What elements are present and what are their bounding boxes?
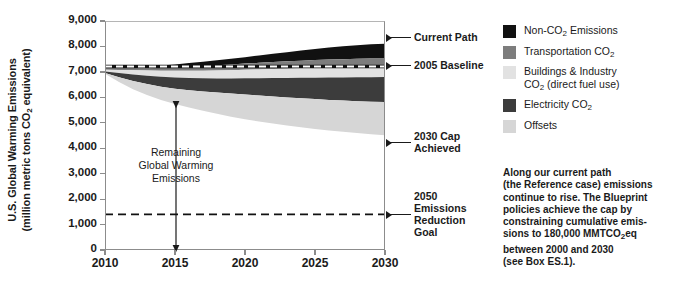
y-axis-title-line1: U.S. Global Warming Emissions xyxy=(6,58,18,222)
callout-2005-baseline: 2005 Baseline xyxy=(414,59,509,71)
legend-item-non-co2-emissions[interactable]: Non-CO2 Emissions xyxy=(503,24,678,41)
remaining-emissions-arrow xyxy=(105,21,385,250)
x-tick-label-2010: 2010 xyxy=(75,256,135,270)
caption-line8: (see Box ES.1). xyxy=(503,256,675,268)
x-tick-label-2025: 2025 xyxy=(285,256,345,270)
x-tick-label-2020: 2020 xyxy=(215,256,275,270)
y-tick-label-7000: 7,000 xyxy=(35,64,97,76)
callout-2050-goal-line1: 2050 xyxy=(414,190,494,202)
callout-line-2030-cap xyxy=(389,142,411,143)
callout-line-2005-baseline xyxy=(389,65,411,66)
x-tick-label-2030: 2030 xyxy=(355,256,415,270)
x-tick-mark-2025 xyxy=(314,250,315,255)
caption-line7: between 2000 and 2030 xyxy=(503,244,675,256)
x-tick-mark-2020 xyxy=(244,250,245,255)
figure-stacked-area-emissions: U.S. Global Warming Emissions (million m… xyxy=(0,0,681,284)
callout-2030-cap-line1: 2030 Cap xyxy=(414,130,494,142)
caption-line5: constraining cumulative emis- xyxy=(503,216,675,228)
legend-item-buildings-industry-co2[interactable]: Buildings & IndustryCO2 (direct fuel use… xyxy=(503,65,678,94)
callout-2050-goal-line2: Emissions xyxy=(414,202,494,214)
caption-text: Along our current path (the Reference ca… xyxy=(503,167,675,268)
legend-label-offsets: Offsets xyxy=(524,119,557,132)
legend-swatch-buildings-industry-co2 xyxy=(503,66,516,79)
y-tick-label-5000: 5,000 xyxy=(35,115,97,127)
legend-label-electricity-co2: Electricity CO2 xyxy=(524,98,592,115)
caption-line3: continue to rise. The Blueprint xyxy=(503,192,675,204)
y-tick-label-9000: 9,000 xyxy=(35,13,97,25)
remaining-line1: Remaining xyxy=(128,146,224,159)
legend-label-transportation-co2: Transportation CO2 xyxy=(524,45,614,62)
y-tick-label-6000: 6,000 xyxy=(35,89,97,101)
callout-arrowhead-2050-goal xyxy=(386,211,392,219)
remaining-line2: Global Warming xyxy=(128,159,224,172)
callout-arrowhead-current-path xyxy=(386,34,392,42)
legend-swatch-non-co2-emissions xyxy=(503,25,516,38)
legend-swatch-electricity-co2 xyxy=(503,99,516,112)
y-tick-label-2000: 2,000 xyxy=(35,191,97,203)
legend: Non-CO2 EmissionsTransportation CO2Build… xyxy=(503,24,678,137)
x-tick-mark-2030 xyxy=(384,250,385,255)
legend-item-offsets[interactable]: Offsets xyxy=(503,119,678,133)
legend-item-electricity-co2[interactable]: Electricity CO2 xyxy=(503,98,678,115)
y-axis-title-line2: (million metric tons CO2 equivalent) xyxy=(20,11,37,269)
y-tick-label-4000: 4,000 xyxy=(35,140,97,152)
callout-2050-goal-line3: Reduction xyxy=(414,214,494,226)
y-tick-label-1000: 1,000 xyxy=(35,217,97,229)
legend-label-non-co2-emissions: Non-CO2 Emissions xyxy=(524,24,618,41)
remaining-line3: Emissions xyxy=(128,172,224,185)
callout-current-path: Current Path xyxy=(414,31,499,43)
y-tick-label-3000: 3,000 xyxy=(35,166,97,178)
callout-2050-goal: 2050 Emissions Reduction Goal xyxy=(414,190,494,238)
remaining-emissions-label: Remaining Global Warming Emissions xyxy=(128,146,224,185)
caption-line4: policies achieve the cap by xyxy=(503,204,675,216)
y-axis-title: U.S. Global Warming Emissions (million m… xyxy=(6,11,36,269)
plot-area xyxy=(105,21,385,250)
y-tick-label-8000: 8,000 xyxy=(35,38,97,50)
legend-item-transportation-co2[interactable]: Transportation CO2 xyxy=(503,45,678,62)
callout-line-current-path xyxy=(389,37,411,38)
callout-arrowhead-2005-baseline xyxy=(386,62,392,70)
x-tick-label-2015: 2015 xyxy=(145,256,205,270)
caption-line2: (the Reference case) emissions xyxy=(503,179,675,191)
callout-2050-goal-line4: Goal xyxy=(414,226,494,238)
x-tick-mark-2010 xyxy=(104,250,105,255)
subscript-2: 2 xyxy=(25,108,34,112)
legend-swatch-transportation-co2 xyxy=(503,46,516,59)
callout-2030-cap-line2: Achieved xyxy=(414,142,494,154)
caption-line1: Along our current path xyxy=(503,167,675,179)
legend-swatch-offsets xyxy=(503,120,516,133)
callout-line-2050-goal xyxy=(389,214,411,215)
callout-arrowhead-2030-cap xyxy=(386,139,392,147)
caption-line6: sions to 180,000 MMTCO2eq xyxy=(503,228,675,243)
callout-2030-cap: 2030 Cap Achieved xyxy=(414,130,494,154)
legend-label-buildings-industry-co2: Buildings & IndustryCO2 (direct fuel use… xyxy=(524,65,619,94)
y-tick-label-0: 0 xyxy=(35,242,97,254)
x-tick-mark-2015 xyxy=(174,250,175,255)
